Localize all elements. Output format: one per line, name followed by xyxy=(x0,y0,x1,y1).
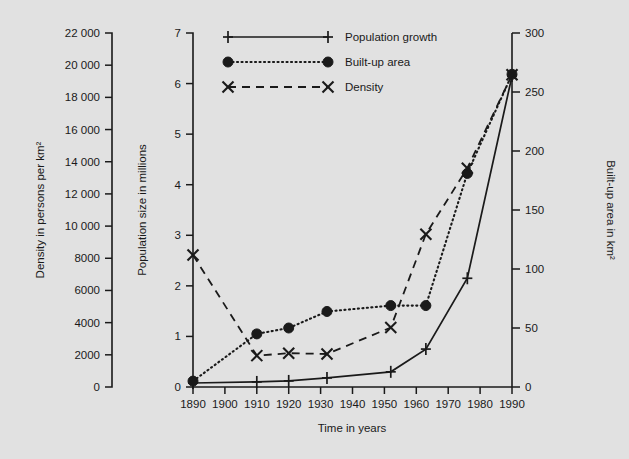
data-point-circle xyxy=(323,57,333,67)
legend-item-built-up-area: Built-up area xyxy=(223,56,411,68)
tick-label: 1920 xyxy=(276,398,302,410)
tick-label: 1910 xyxy=(244,398,270,410)
right-axis: 050100150200250300 Built-up area in km² xyxy=(512,27,617,393)
data-point-circle xyxy=(421,301,431,311)
data-point-plus xyxy=(322,372,332,384)
tick-label: 250 xyxy=(525,86,544,98)
data-point-x xyxy=(420,229,431,240)
tick-label: 200 xyxy=(525,145,544,157)
tick-label: 1970 xyxy=(435,398,461,410)
tick-label: 1980 xyxy=(467,398,493,410)
tick-label: 18 000 xyxy=(65,91,100,103)
tick-label: 1930 xyxy=(308,398,334,410)
tick-label: 12 000 xyxy=(65,188,100,200)
tick-label: 1 xyxy=(175,330,181,342)
data-point-circle xyxy=(284,323,294,333)
tick-label: 2000 xyxy=(74,349,100,361)
series-line xyxy=(193,74,512,381)
right-axis-title: Built-up area in km² xyxy=(605,160,617,260)
center-axis: 01234567 Population size in millions xyxy=(136,27,193,393)
chart-legend: Population growthBuilt-up areaDensity xyxy=(223,31,438,93)
tick-label: 10 000 xyxy=(65,220,100,232)
data-point-circle xyxy=(386,301,396,311)
data-series-layer xyxy=(188,69,518,389)
tick-label: 3 xyxy=(175,229,181,241)
data-point-plus xyxy=(223,31,233,43)
tick-label: 1960 xyxy=(404,398,430,410)
tick-label: 100 xyxy=(525,263,544,275)
tick-label: 6 xyxy=(175,78,181,90)
legend-label: Density xyxy=(345,81,384,93)
chart-svg: 0200040006000800010 00012 00014 00016 00… xyxy=(0,0,629,459)
x-axis-title: Time in years xyxy=(318,422,387,434)
data-point-circle xyxy=(252,329,262,339)
data-point-circle xyxy=(462,168,472,178)
tick-label: 7 xyxy=(175,27,181,39)
tick-label: 14 000 xyxy=(65,156,100,168)
tick-label: 22 000 xyxy=(65,27,100,39)
tick-label: 2 xyxy=(175,280,181,292)
legend-label: Built-up area xyxy=(345,56,411,68)
legend-item-density: Density xyxy=(223,81,384,93)
chart-figure: 0200040006000800010 00012 00014 00016 00… xyxy=(0,0,629,459)
data-point-plus xyxy=(462,272,472,284)
tick-label: 1950 xyxy=(372,398,398,410)
tick-label: 1900 xyxy=(212,398,238,410)
legend-item-population-growth: Population growth xyxy=(223,31,437,43)
series-density xyxy=(188,69,518,361)
data-point-plus xyxy=(252,376,262,388)
legend-label: Population growth xyxy=(345,31,437,43)
series-built-up-area xyxy=(188,69,517,386)
tick-label: 300 xyxy=(525,27,544,39)
tick-label: 0 xyxy=(94,381,100,393)
data-point-plus xyxy=(386,366,396,378)
series-line xyxy=(193,76,512,383)
center-axis-title: Population size in millions xyxy=(136,144,148,276)
data-point-x xyxy=(323,82,334,93)
tick-label: 4000 xyxy=(74,317,100,329)
tick-label: 1890 xyxy=(180,398,206,410)
tick-label: 150 xyxy=(525,204,544,216)
series-line xyxy=(193,75,512,356)
tick-label: 20 000 xyxy=(65,59,100,71)
tick-label: 16 000 xyxy=(65,124,100,136)
data-point-x xyxy=(385,322,396,333)
left-axis: 0200040006000800010 00012 00014 00016 00… xyxy=(34,27,112,393)
data-point-circle xyxy=(188,376,198,386)
data-point-circle xyxy=(223,57,233,67)
tick-label: 0 xyxy=(525,381,531,393)
tick-label: 50 xyxy=(525,322,538,334)
tick-label: 6000 xyxy=(74,284,100,296)
data-point-plus xyxy=(284,375,294,387)
series-population-growth xyxy=(188,70,517,389)
tick-label: 5 xyxy=(175,128,181,140)
data-point-circle xyxy=(322,306,332,316)
left-axis-title: Density in persons per km² xyxy=(34,141,46,278)
x-axis: 1890190019101920193019401950196019701980… xyxy=(180,387,525,434)
tick-label: 1990 xyxy=(499,398,525,410)
tick-label: 8000 xyxy=(74,252,100,264)
data-point-x xyxy=(251,350,262,361)
data-point-plus xyxy=(421,343,431,355)
tick-label: 4 xyxy=(175,179,182,191)
tick-label: 1940 xyxy=(340,398,366,410)
data-point-plus xyxy=(323,31,333,43)
tick-label: 0 xyxy=(175,381,181,393)
